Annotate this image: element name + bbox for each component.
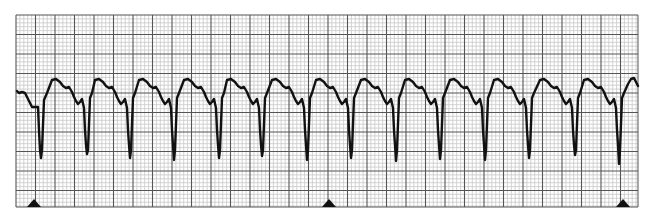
minor-grid [16,15,638,207]
time-marker-triangle [27,199,41,207]
ecg-strip [0,0,655,220]
